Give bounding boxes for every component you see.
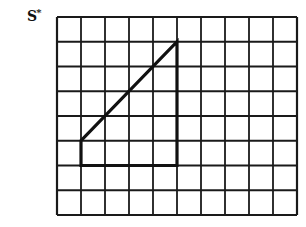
grid-diagram: [0, 0, 306, 227]
